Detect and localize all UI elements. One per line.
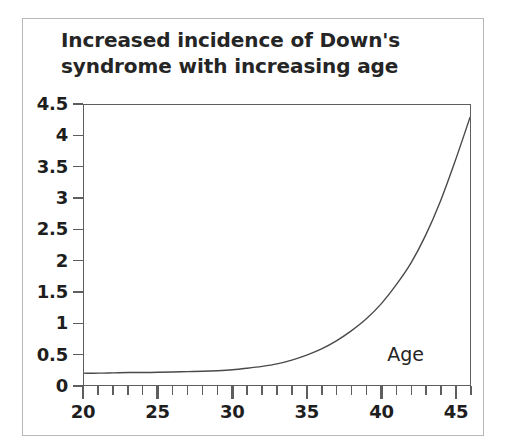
x-tick-mark (276, 386, 278, 395)
x-tick-mark (455, 386, 458, 399)
x-tick-label: 30 (220, 401, 245, 422)
y-tick-mark (73, 166, 83, 168)
x-tick-mark (261, 386, 263, 395)
x-tick-mark (217, 386, 219, 395)
x-tick-label: 40 (369, 401, 394, 422)
x-tick-mark (306, 386, 309, 399)
y-tick-label: 4.5 (37, 93, 68, 114)
x-tick-mark (291, 386, 293, 395)
y-tick-mark (73, 197, 83, 199)
y-tick-label: 1.5 (37, 281, 68, 302)
x-tick-mark (425, 386, 427, 395)
x-tick-mark (366, 386, 368, 395)
y-tick-mark (73, 323, 83, 325)
x-tick-mark (470, 386, 472, 395)
y-tick-mark (73, 260, 83, 262)
chart-title-line-1: Increased incidence of Down's (61, 27, 421, 53)
x-tick-mark (82, 386, 85, 399)
x-tick-mark (127, 386, 129, 395)
x-tick-mark (246, 386, 248, 395)
x-tick-mark (440, 386, 442, 395)
y-tick-label: 3.5 (37, 156, 68, 177)
y-tick-mark (73, 135, 83, 137)
y-tick-label: 2 (56, 250, 68, 271)
x-axis-ticks: 202530354045 (83, 386, 471, 436)
x-tick-mark (172, 386, 174, 395)
x-tick-mark (202, 386, 204, 395)
x-tick-label: 25 (145, 401, 170, 422)
x-tick-label: 35 (295, 401, 320, 422)
x-tick-mark (231, 386, 234, 399)
x-tick-mark (321, 386, 323, 395)
x-tick-mark (112, 386, 114, 395)
x-tick-mark (97, 386, 99, 395)
y-tick-mark (73, 354, 83, 356)
x-tick-mark (351, 386, 353, 395)
y-tick-label: 4 (56, 124, 68, 145)
x-tick-mark (396, 386, 398, 395)
x-tick-mark (411, 386, 413, 395)
x-tick-label: 45 (444, 401, 469, 422)
y-tick-label: 2.5 (37, 218, 68, 239)
y-tick-label: 0 (56, 375, 68, 396)
y-tick-mark (73, 103, 83, 105)
x-tick-mark (156, 386, 159, 399)
plot-area: Age (83, 104, 471, 386)
y-tick-label: 0.5 (37, 344, 68, 365)
chart-title: Increased incidence of Down's syndrome w… (61, 27, 421, 80)
chart-title-line-2: syndrome with increasing age (61, 53, 421, 79)
x-tick-mark (380, 386, 383, 399)
x-tick-mark (187, 386, 189, 395)
y-tick-label: 3 (56, 187, 68, 208)
curve-path (84, 117, 470, 373)
y-tick-label: 1 (56, 312, 68, 333)
x-tick-mark (336, 386, 338, 395)
x-axis-title: Age (387, 343, 424, 365)
y-axis-ticks: 00.511.522.533.544.5 (23, 104, 83, 386)
y-tick-mark (73, 229, 83, 231)
x-tick-label: 20 (71, 401, 96, 422)
y-tick-mark (73, 291, 83, 293)
x-tick-mark (142, 386, 144, 395)
chart-figure: Increased incidence of Down's syndrome w… (22, 18, 484, 436)
